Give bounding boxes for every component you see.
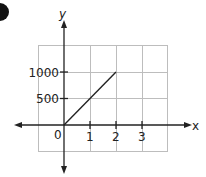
x-axis-left-arrow-icon [14, 122, 22, 128]
origin-label: 0 [54, 128, 62, 142]
x-axis-label: x [192, 119, 199, 133]
x-tick-label-2: 2 [112, 130, 120, 144]
y-tick-label-500: 500 [36, 92, 59, 106]
x-tick-label-3: 3 [138, 130, 146, 144]
y-tick-label-1000: 1000 [28, 66, 59, 80]
coordinate-plane: x y 0 1 2 3 500 1000 [0, 0, 206, 177]
y-axis-label: y [58, 7, 67, 21]
x-axis-right-arrow-icon [184, 122, 192, 128]
x-tick-label-1: 1 [86, 130, 94, 144]
item-marker [0, 3, 9, 21]
y-axis-up-arrow-icon [61, 20, 67, 28]
ticks [60, 72, 142, 129]
y-axis-down-arrow-icon [61, 166, 67, 174]
